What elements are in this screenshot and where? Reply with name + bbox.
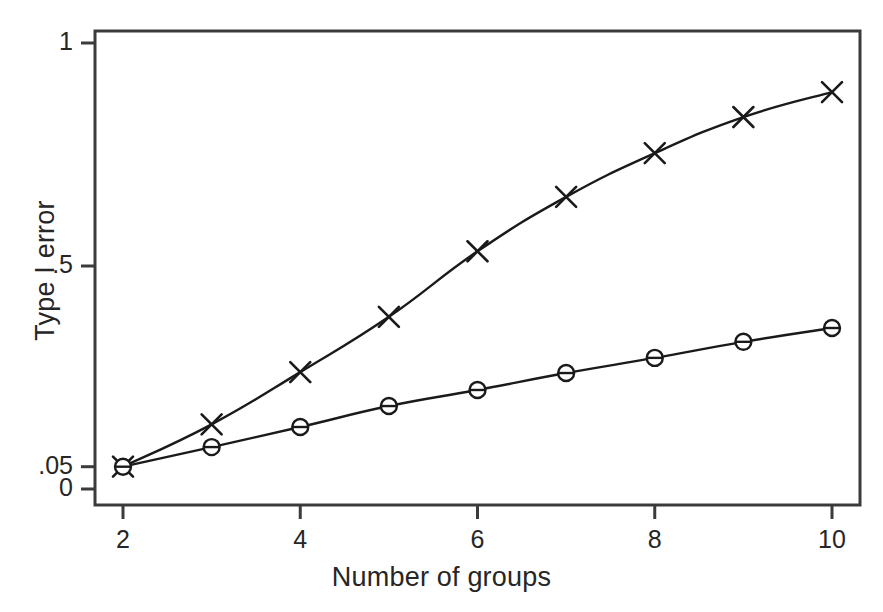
x-tick-label: 2 xyxy=(83,527,163,552)
axis-ticks xyxy=(81,43,832,519)
x-tick-label: 10 xyxy=(792,527,872,552)
series-corrected xyxy=(115,320,840,475)
series-uncorrected xyxy=(113,82,842,477)
x-tick-label: 4 xyxy=(260,527,340,552)
data-series xyxy=(113,82,842,477)
plot-area xyxy=(0,0,883,612)
plot-frame xyxy=(95,31,860,505)
x-tick-label: 6 xyxy=(438,527,518,552)
x-axis-title: Number of groups xyxy=(0,562,883,593)
y-axis-title: Type I error xyxy=(30,141,61,401)
y-tick-label: 0 xyxy=(59,475,73,500)
x-tick-label: 8 xyxy=(615,527,695,552)
chart-figure: 1.5.050246810 Number of groups Type I er… xyxy=(0,0,883,612)
y-tick-label: 1 xyxy=(59,29,73,54)
